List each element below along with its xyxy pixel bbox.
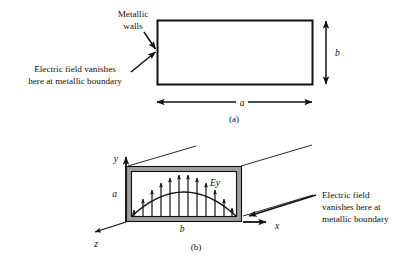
metallic-walls-label-line2: walls xyxy=(123,21,143,31)
dimension-b-group: b xyxy=(326,21,340,84)
y-axis-label: y xyxy=(113,154,119,164)
figure-root: Metallic walls Electric field vanishes h… xyxy=(0,0,412,261)
metallic-walls-label-line1: Metallic xyxy=(118,9,149,19)
z-axis-arrow xyxy=(95,222,126,232)
y-axis-group: y xyxy=(113,154,126,222)
annotation-pointer-arrow xyxy=(249,195,316,216)
field-vanishes-label-line1: Electric field vanishes xyxy=(34,64,116,74)
waveguide-cross-section xyxy=(158,21,313,85)
perspective-line-top-right xyxy=(241,145,312,166)
x-axis-group: x xyxy=(243,221,280,231)
metallic-walls-pointer-arrow xyxy=(144,32,156,49)
perspective-line-top-left xyxy=(128,146,196,166)
panel-b: z y x xyxy=(93,145,389,252)
panel-b-annotation-line1: Electric field xyxy=(322,190,370,200)
panel-b-dimension-b-label: b xyxy=(180,224,185,234)
wall-inner-outline xyxy=(132,172,237,217)
cross-section-rect xyxy=(158,21,313,85)
panel-b-annotation-group: Electric field vanishes here at metallic… xyxy=(249,190,389,224)
panel-a-caption: (a) xyxy=(229,114,239,124)
perspective-line-bottom-right xyxy=(243,195,313,216)
x-axis-label: x xyxy=(274,221,280,231)
panel-b-annotation-line2: vanishes here at xyxy=(322,202,381,212)
z-axis-group: z xyxy=(93,222,126,249)
panel-b-caption: (b) xyxy=(191,242,202,252)
dimension-b-label: b xyxy=(335,48,340,58)
waveguide-diagram: Metallic walls Electric field vanishes h… xyxy=(0,0,412,261)
z-axis-label: z xyxy=(93,239,98,249)
field-vanishes-label-line2: here at metallic boundary xyxy=(28,76,122,86)
panel-b-annotation-line3: metallic boundary xyxy=(322,214,389,224)
dimension-a-label: a xyxy=(240,98,245,108)
field-vanishes-pointer-arrow xyxy=(131,52,156,72)
panel-b-dimension-a-label: a xyxy=(112,189,117,199)
dimension-a-group: a xyxy=(157,98,312,108)
panel-a: Metallic walls Electric field vanishes h… xyxy=(28,9,340,124)
field-ey-label: Ey xyxy=(209,178,221,188)
